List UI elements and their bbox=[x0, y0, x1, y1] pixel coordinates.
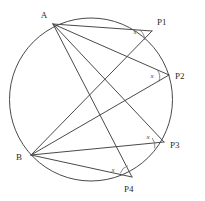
angle-value-labels: x x x x bbox=[110, 28, 154, 174]
inscribed-point-labels: P1 P2 P3 P4 bbox=[124, 17, 185, 194]
chord-a-p1 bbox=[53, 24, 152, 31]
chord-a-p3 bbox=[53, 24, 164, 142]
label-point-b: B bbox=[16, 152, 22, 162]
label-point-p1: P1 bbox=[157, 17, 167, 27]
chord-b-p1 bbox=[31, 31, 152, 155]
chord-b-p2 bbox=[31, 75, 169, 155]
angle-marker-p2 bbox=[157, 70, 159, 82]
geometry-figure: A B P1 P2 P3 P4 x x x x bbox=[0, 0, 205, 201]
label-point-p3: P3 bbox=[170, 140, 180, 150]
endpoint-labels: A B bbox=[16, 10, 48, 162]
angle-label-p2: x bbox=[149, 72, 154, 80]
geometry-canvas: A B P1 P2 P3 P4 x x x x bbox=[0, 0, 205, 201]
label-point-p2: P2 bbox=[175, 71, 185, 81]
chords-from-b bbox=[31, 31, 169, 177]
chord-b-p4 bbox=[31, 155, 132, 177]
angle-label-p3: x bbox=[145, 133, 150, 141]
circumscribed-circle bbox=[10, 18, 173, 181]
chord-a-p4 bbox=[53, 24, 132, 177]
label-point-a: A bbox=[41, 10, 48, 20]
label-point-p4: P4 bbox=[124, 184, 134, 194]
